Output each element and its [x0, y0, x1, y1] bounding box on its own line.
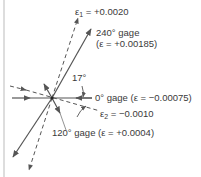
epsilon2-value: = −0.0010: [108, 108, 153, 119]
gage-240-label-line2: (ε = +0.00185): [96, 38, 157, 49]
gage-240-label-line1: 240° gage: [96, 27, 139, 38]
epsilon2-label: ε2 = −0.0010: [100, 108, 154, 122]
gage-120-label: 120° gage (ε = +0.0004): [52, 127, 154, 138]
angle-label: 17°: [72, 72, 86, 83]
principal-axis-1-lower: [29, 98, 52, 170]
angle-arc-17-lower: [77, 106, 86, 117]
epsilon1-label: ε1 = +0.0020: [75, 6, 129, 20]
epsilon1-value: = +0.0020: [83, 6, 128, 17]
angle-arc-17: [82, 86, 83, 97]
gage-240-axis: [52, 29, 91, 98]
principal-axis-2-main: [26, 90, 100, 111]
gage-0-label: 0° gage (ε = −0.00075): [95, 92, 192, 103]
gage-120-axis-down: [52, 98, 60, 113]
principal-axis-2: [10, 86, 26, 90]
rosette-center: [50, 96, 53, 99]
gage-240-axis-lower: [13, 98, 52, 157]
